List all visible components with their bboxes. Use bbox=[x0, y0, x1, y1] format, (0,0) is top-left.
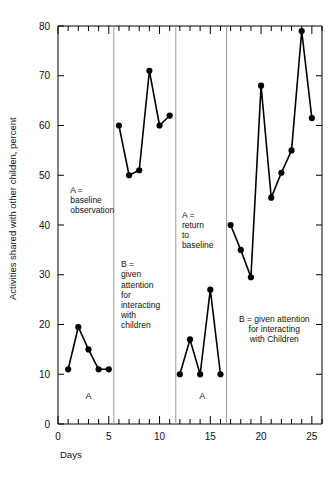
y-tick-label: 10 bbox=[39, 369, 51, 380]
x-tick-label: 20 bbox=[256, 431, 268, 442]
annotation-layer: DaysActivities shared with other childen… bbox=[7, 117, 310, 460]
data-point bbox=[248, 274, 254, 280]
y-tick-label: 70 bbox=[39, 70, 51, 81]
line-chart: 010203040506070800510152025 DaysActiviti… bbox=[0, 0, 333, 489]
x-tick-label: 25 bbox=[306, 431, 318, 442]
data-point bbox=[278, 170, 284, 176]
annotation-line: A = bbox=[70, 185, 83, 195]
annotation-line: given bbox=[121, 269, 142, 279]
data-point bbox=[116, 122, 122, 128]
data-point bbox=[106, 366, 112, 372]
annotation-line: return bbox=[182, 220, 204, 230]
annotation-line: with Children bbox=[249, 334, 299, 344]
data-point bbox=[288, 147, 294, 153]
y-tick-label: 0 bbox=[44, 419, 50, 430]
phase-letter-label: A bbox=[85, 391, 91, 401]
data-point bbox=[156, 122, 162, 128]
y-tick-label: 50 bbox=[39, 170, 51, 181]
annot-b-attention-2: B = given attentionfor interactingwith C… bbox=[239, 314, 310, 344]
annotation-line: for bbox=[121, 290, 131, 300]
annotation-line: B = given attention bbox=[239, 314, 310, 324]
annot-b-attention-1: B =givenattentionforinteractingwithchild… bbox=[120, 259, 160, 330]
annotation-line: baseline bbox=[70, 195, 102, 205]
annotation-line: for interacting bbox=[249, 324, 301, 334]
y-tick-label: 40 bbox=[39, 220, 51, 231]
x-axis-title: Days bbox=[60, 449, 82, 460]
data-point bbox=[187, 336, 193, 342]
data-point bbox=[136, 167, 142, 173]
phase-divider-layer bbox=[114, 26, 227, 424]
x-tick-label: 10 bbox=[154, 431, 166, 442]
x-tick-label: 0 bbox=[55, 431, 61, 442]
data-point bbox=[65, 366, 71, 372]
data-point bbox=[299, 28, 305, 34]
y-tick-label: 80 bbox=[39, 21, 51, 32]
annotation-line: attention bbox=[121, 280, 154, 290]
data-point bbox=[146, 68, 152, 74]
data-point bbox=[197, 371, 203, 377]
phase-letter-label: A bbox=[199, 391, 205, 401]
annot-a-baseline: A =baselineobservation bbox=[70, 185, 114, 215]
axes-layer: 010203040506070800510152025 bbox=[39, 21, 322, 442]
series-line bbox=[180, 290, 221, 375]
annotation-line: baseline bbox=[182, 240, 214, 250]
data-point bbox=[177, 371, 183, 377]
data-point bbox=[258, 83, 264, 89]
data-point bbox=[85, 346, 91, 352]
y-tick-label: 20 bbox=[39, 319, 51, 330]
annotation-line: B = bbox=[121, 259, 134, 269]
annot-a-return: A =returntobaseline bbox=[182, 210, 214, 251]
chart-container: 010203040506070800510152025 DaysActiviti… bbox=[0, 0, 333, 489]
data-point bbox=[309, 115, 315, 121]
x-tick-label: 15 bbox=[205, 431, 217, 442]
data-point bbox=[268, 195, 274, 201]
data-point bbox=[228, 222, 234, 228]
y-tick-label: 60 bbox=[39, 120, 51, 131]
series-line bbox=[231, 31, 312, 277]
annotation-line: observation bbox=[70, 205, 114, 215]
data-point bbox=[167, 112, 173, 118]
data-point bbox=[238, 247, 244, 253]
annotation-line: to bbox=[182, 230, 189, 240]
y-tick-label: 30 bbox=[39, 269, 51, 280]
annotation-line: children bbox=[121, 320, 151, 330]
y-axis-title: Activities shared with other childen, pe… bbox=[7, 117, 18, 300]
annotation-line: with bbox=[120, 310, 136, 320]
series-line bbox=[119, 71, 170, 175]
data-point bbox=[217, 371, 223, 377]
data-point bbox=[207, 287, 213, 293]
annotation-line: A = bbox=[182, 210, 195, 220]
data-point bbox=[126, 172, 132, 178]
data-point bbox=[75, 324, 81, 330]
annotation-line: interacting bbox=[121, 300, 160, 310]
x-tick-label: 5 bbox=[106, 431, 112, 442]
data-point bbox=[96, 366, 102, 372]
